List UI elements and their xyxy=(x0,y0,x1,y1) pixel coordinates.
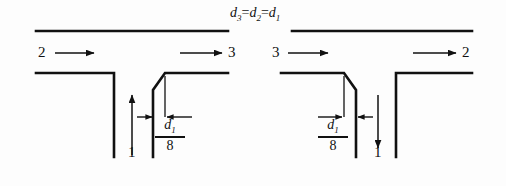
d1-subscript: 1 xyxy=(276,13,281,23)
left-dimension-fraction: d1 8 xyxy=(155,118,185,153)
left-outlet-label: 3 xyxy=(228,45,236,60)
left-fraction-numerator: d1 xyxy=(155,118,185,135)
d1-symbol: d xyxy=(269,5,276,20)
right-outlet-label: 2 xyxy=(462,45,470,60)
d3-symbol: d xyxy=(230,5,237,20)
left-fraction-denominator: 8 xyxy=(155,139,185,154)
left-inlet-label: 2 xyxy=(38,45,46,60)
right-inlet-label: 3 xyxy=(272,45,280,60)
right-branch-label: 1 xyxy=(374,145,382,160)
left-upstream-wall xyxy=(36,73,114,157)
right-fraction-denominator: 8 xyxy=(318,139,348,154)
figure-canvas: d3=d2=d1 2 3 1 d1 8 3 2 1 d1 8 xyxy=(0,0,506,186)
right-dimension-fraction: d1 8 xyxy=(318,118,348,153)
diameter-equality-label: d3=d2=d1 xyxy=(230,6,280,23)
right-fraction-numerator: d1 xyxy=(318,118,348,135)
pipe-diagram-svg xyxy=(0,0,506,186)
equals-sign-2: = xyxy=(261,5,269,20)
right-downstream-wall xyxy=(396,73,472,157)
left-branch-label: 1 xyxy=(128,145,136,160)
left-frac-sub: 1 xyxy=(171,125,176,135)
right-frac-sub: 1 xyxy=(334,125,339,135)
